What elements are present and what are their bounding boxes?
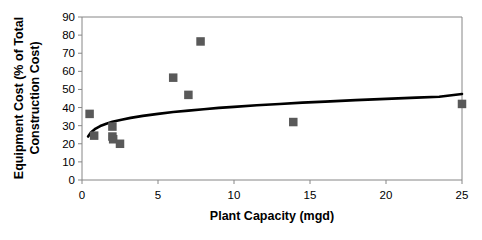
y-axis-title: Equipment Cost (% of TotalConstruction C… [12, 17, 42, 179]
x-tick-label: 10 [228, 189, 241, 201]
data-point-marker [289, 118, 298, 127]
y-tick-label: 90 [62, 11, 75, 23]
y-tick-label: 30 [62, 120, 75, 132]
y-tick-label: 50 [62, 83, 75, 95]
scatter-plot: Equipment Cost (% of TotalConstruction C… [0, 0, 482, 240]
y-tick-label: 70 [62, 47, 75, 59]
data-points [85, 37, 466, 148]
data-point-marker [90, 131, 99, 140]
y-tick-label: 10 [62, 156, 75, 168]
y-tick-label: 0 [69, 174, 75, 186]
data-point-marker [85, 110, 94, 119]
data-point-marker [108, 122, 117, 131]
chart-container: Equipment Cost (% of TotalConstruction C… [0, 0, 482, 240]
y-axis-ticks: 0102030405060708090 [62, 11, 82, 186]
data-point-marker [116, 140, 125, 149]
x-tick-label: 15 [304, 189, 317, 201]
x-tick-label: 25 [456, 189, 469, 201]
x-tick-label: 5 [155, 189, 161, 201]
y-axis-title-line: Construction Cost) [28, 41, 42, 154]
y-axis-title-line: Equipment Cost (% of Total [12, 17, 26, 179]
x-axis-title: Plant Capacity (mgd) [210, 209, 334, 223]
x-tick-label: 20 [380, 189, 393, 201]
x-tick-label: 0 [79, 189, 85, 201]
data-point-marker [184, 91, 193, 100]
trend-line [88, 94, 462, 137]
y-tick-label: 40 [62, 102, 75, 114]
y-tick-label: 20 [62, 138, 75, 150]
x-axis-title-text: Plant Capacity (mgd) [210, 209, 334, 223]
data-point-marker [196, 37, 205, 46]
trend-line-path [88, 94, 462, 137]
x-axis-ticks: 0510152025 [79, 180, 469, 201]
data-point-marker [458, 100, 467, 109]
data-point-marker [169, 73, 178, 82]
y-tick-label: 80 [62, 29, 75, 41]
y-tick-label: 60 [62, 65, 75, 77]
